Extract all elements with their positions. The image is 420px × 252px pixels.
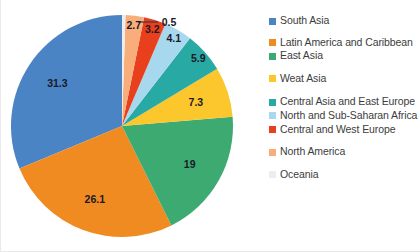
data-label-north-and-sub-saharan-africa: 4.1 [166, 33, 181, 44]
legend-label-south-asia: South Asia [280, 14, 329, 27]
data-label-central-asia-and-east-europe: 5.9 [191, 53, 206, 64]
pie-svg [1, 0, 253, 252]
data-label-east-asia: 19 [184, 159, 196, 170]
legend-label-central-and-west-europe: Central and West Europe [280, 123, 395, 136]
data-label-weat-asia: 7.3 [189, 97, 204, 108]
data-label-oceania: 0.5 [162, 17, 177, 28]
data-label-north-america: 2.7 [126, 19, 141, 30]
pie-plot-area: 31.326.1197.35.94.13.22.70.5 [1, 0, 253, 252]
pie-slice-group [11, 15, 233, 237]
legend-label-east-asia: East Asia [280, 49, 323, 62]
legend-swatch-east-asia [269, 53, 276, 60]
legend-item-north-america[interactable]: North America [269, 145, 420, 158]
legend-label-central-asia-and-east-europe: Central Asia and East Europe [280, 95, 415, 108]
legend-item-east-asia[interactable]: East Asia [269, 49, 420, 62]
legend-label-oceania: Oceania [280, 168, 318, 181]
legend-swatch-north-america [269, 149, 276, 156]
legend-item-central-asia-and-east-europe[interactable]: Central Asia and East Europe [269, 95, 420, 108]
legend-swatch-central-asia-and-east-europe [269, 99, 276, 106]
legend-item-central-and-west-europe[interactable]: Central and West Europe [269, 123, 420, 136]
legend-label-weat-asia: Weat Asia [280, 72, 326, 85]
legend-swatch-weat-asia [269, 75, 276, 82]
data-label-latin-america-and-caribbean: 26.1 [85, 194, 105, 205]
legend-label-north-and-sub-saharan-africa: North and Sub-Saharan Africa [280, 109, 417, 122]
legend-item-latin-america-and-caribbean[interactable]: Latin America and Caribbean [269, 36, 420, 49]
legend-label-latin-america-and-caribbean: Latin America and Caribbean [280, 36, 413, 49]
data-label-south-asia: 31.3 [47, 78, 67, 89]
legend-swatch-central-and-west-europe [269, 126, 276, 133]
legend-item-south-asia[interactable]: South Asia [269, 14, 420, 27]
pie-chart-figure: 31.326.1197.35.94.13.22.70.5 South Asia … [0, 0, 420, 252]
legend-swatch-south-asia [269, 18, 276, 25]
legend-item-oceania[interactable]: Oceania [269, 168, 420, 181]
legend-swatch-north-and-sub-saharan-africa [269, 112, 276, 119]
legend-label-north-america: North America [280, 145, 345, 158]
legend-item-weat-asia[interactable]: Weat Asia [269, 72, 420, 85]
chart-legend: South Asia Latin America and Caribbean E… [269, 14, 420, 182]
data-label-central-and-west-europe: 3.2 [145, 23, 160, 34]
legend-swatch-latin-america-and-caribbean [269, 39, 276, 46]
legend-swatch-oceania [269, 171, 276, 178]
legend-item-north-and-sub-saharan-africa[interactable]: North and Sub-Saharan Africa [269, 109, 420, 122]
